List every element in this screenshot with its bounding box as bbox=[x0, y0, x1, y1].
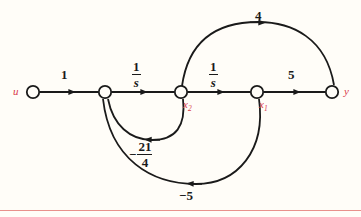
bottom-rule-divider bbox=[0, 210, 361, 211]
node-x1[interactable] bbox=[251, 86, 263, 98]
node-label-y: y bbox=[344, 86, 349, 97]
gain-label-n2-to-x2: 1 s bbox=[132, 60, 141, 89]
node-label-x2-sub: 2 bbox=[188, 104, 192, 113]
edge-x1-to-n2-arc bbox=[103, 99, 260, 184]
edge-x2-to-n2-arc bbox=[108, 99, 184, 140]
gain-label-x2-to-x1: 1 s bbox=[209, 60, 218, 89]
fraction-sign: − bbox=[129, 148, 137, 161]
node-u[interactable] bbox=[27, 86, 39, 98]
gain-label-x2-to-y: 4 bbox=[255, 9, 262, 22]
fraction-denominator: s bbox=[209, 75, 218, 89]
fraction-1-over-s-a: 1 s bbox=[132, 60, 141, 89]
fraction-numerator: 1 bbox=[209, 60, 218, 75]
fraction-numerator: 21 bbox=[137, 140, 152, 155]
fraction-21-over-4: 21 4 bbox=[137, 140, 152, 169]
node-label-x1: x1 bbox=[259, 99, 268, 113]
edge-x2-to-y-arc bbox=[182, 22, 334, 86]
node-y[interactable] bbox=[326, 86, 338, 98]
signal-flow-graph-figure: u x2 x1 y 1 1 s 1 s 5 4 − 21 4 −5 bbox=[0, 0, 361, 217]
gain-label-x1-to-n2: −5 bbox=[179, 189, 193, 202]
node-label-u: u bbox=[13, 86, 19, 97]
fraction-denominator: 4 bbox=[137, 155, 152, 169]
node-summing-junction[interactable] bbox=[99, 86, 111, 98]
fraction-1-over-s-b: 1 s bbox=[209, 60, 218, 89]
node-x2[interactable] bbox=[175, 86, 187, 98]
fraction-numerator: 1 bbox=[132, 60, 141, 75]
node-label-x2: x2 bbox=[183, 99, 192, 113]
gain-label-x1-to-y: 5 bbox=[288, 68, 295, 81]
gain-label-u-to-n2: 1 bbox=[61, 68, 68, 81]
node-label-x1-sub: 1 bbox=[264, 104, 268, 113]
graph-canvas bbox=[0, 0, 361, 217]
fraction-denominator: s bbox=[132, 75, 141, 89]
gain-label-x2-to-n2: − 21 4 bbox=[129, 140, 152, 169]
